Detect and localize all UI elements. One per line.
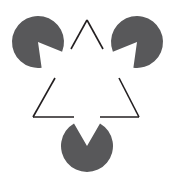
kanizsa-triangle-figure [0,0,174,182]
kanizsa-figure-container [0,0,174,182]
